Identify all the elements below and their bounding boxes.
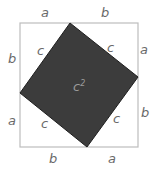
label-hyp-bottom-left: c — [41, 116, 48, 131]
label-left-a: a — [8, 113, 16, 128]
label-top-b: b — [101, 5, 109, 20]
label-right-a: a — [140, 42, 148, 57]
label-left-b: b — [8, 51, 16, 66]
label-hyp-top-right: c — [107, 40, 114, 55]
label-right-b: b — [141, 105, 149, 120]
label-bottom-a: a — [108, 151, 116, 166]
label-bottom-b: b — [49, 151, 57, 166]
label-top-a: a — [41, 5, 49, 20]
label-hyp-bottom-right: c — [113, 111, 120, 126]
pythagorean-diagram: a b b a a b b a c c c c c2 — [0, 0, 157, 170]
label-hyp-top-left: c — [37, 43, 44, 58]
